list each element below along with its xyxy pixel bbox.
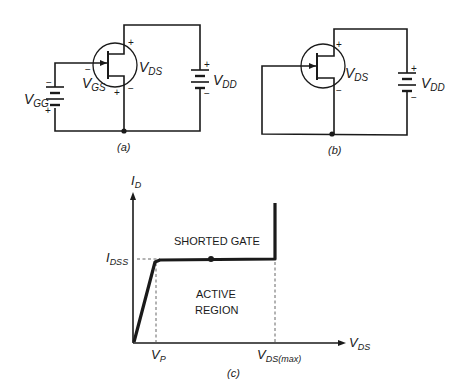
label-id: ID [131,173,142,190]
caption-b: (b) [328,144,342,156]
sign-vgs-minus: − [85,64,91,75]
junction-dot-a [121,128,126,133]
sign-vgg-minus: − [46,77,52,88]
x-axis-arrow-icon [338,340,346,346]
sign-vdd-plus-a: + [204,59,210,70]
battery-vdd-icon [191,70,209,88]
label-active: ACTIVE [196,288,236,300]
sign-vgg-plus: + [45,105,51,116]
sign-vdd-minus-b: − [411,92,417,103]
sign-vds-plus-b: + [336,39,342,50]
graph-c: ID IDSS VDS VP VDS(max) SHORTED GATE ACT… [106,173,370,379]
sign-vds-minus-a: − [128,83,134,94]
sign-vds-plus-a: + [128,37,134,48]
battery-vdd-b-icon [398,73,416,91]
wire-drain-top [124,25,200,70]
sign-vds-minus-b: − [336,85,342,96]
label-vds-a: VDS [139,59,163,77]
operating-point-dot [208,256,214,262]
sign-vdd-minus-a: − [204,88,210,99]
label-idss: IDSS [106,250,128,267]
caption-c: (c) [227,367,240,379]
label-region: REGION [195,304,238,316]
gate-arrow-b-icon [309,63,316,69]
label-vgs: VGS [82,75,106,93]
label-shorted-gate: SHORTED GATE [174,235,260,247]
circuit-b: VDS + − VDD + − (b) [262,29,445,156]
circuit-a: VGG − + VGS − + VDS + − VDD + − (a) [24,25,237,153]
figure-canvas: VGG − + VGS − + VDS + − VDD + − (a) V [0,0,462,391]
label-vdd-b: VDD [421,75,445,93]
caption-a: (a) [117,141,131,153]
sign-vgs-plus: + [114,87,120,98]
y-axis-arrow-icon [130,192,136,200]
gate-arrow-icon [100,60,107,66]
sign-vdd-plus-b: + [411,63,417,74]
wire-bottom [55,88,200,131]
label-vdsmax: VDS(max) [257,347,301,364]
label-vdd-a: VDD [213,72,237,90]
junction-dot-b [329,131,334,136]
label-vp: VP [151,347,166,364]
label-vds-axis: VDS [349,335,370,352]
label-vds-b: VDS [345,65,369,83]
drain-curve [134,203,275,342]
